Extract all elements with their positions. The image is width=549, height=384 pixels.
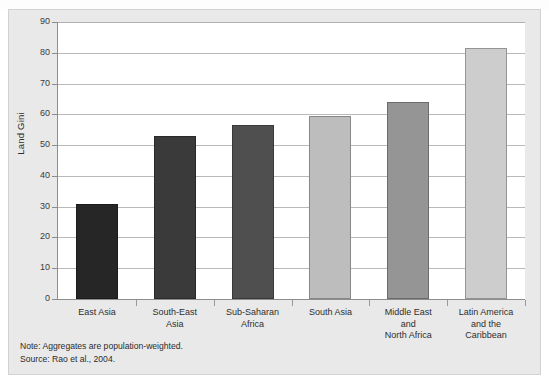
y-axis-tick-label: 30	[18, 201, 50, 211]
x-axis-category-label: South-EastAsia	[136, 307, 214, 330]
x-axis-category-label-line: South Asia	[292, 307, 370, 319]
bar	[76, 204, 118, 299]
y-axis-tick-label: 40	[18, 170, 50, 180]
y-axis-tick-label: 90	[18, 16, 50, 26]
x-axis-tick-mark	[136, 300, 137, 306]
footnote-note: Note: Aggregates are population-weighted…	[20, 340, 480, 353]
x-axis-tick-mark	[292, 300, 293, 306]
x-axis-category-label: Sub-SaharanAfrica	[214, 307, 292, 330]
x-axis-category-label-line: Africa	[214, 319, 292, 331]
y-axis-tick-mark	[52, 84, 57, 85]
x-axis-tick-mark	[369, 300, 370, 306]
bar	[232, 125, 274, 299]
bar	[465, 48, 507, 299]
x-axis-tick-mark	[447, 300, 448, 306]
y-axis-tick-label: 70	[18, 78, 50, 88]
x-axis-category-label-line: and	[369, 319, 447, 331]
chart-plot-wrapper: Land Gini 9080706050403020100 East AsiaS…	[9, 10, 542, 376]
x-axis-category-label-line: Latin America	[447, 307, 525, 319]
y-axis-tick-mark	[52, 268, 57, 269]
x-axis-category-label: Middle EastandNorth Africa	[369, 307, 447, 342]
x-axis-category-label-line: Asia	[136, 319, 214, 331]
bar	[387, 102, 429, 299]
bar-slot	[447, 22, 525, 299]
bar	[154, 136, 196, 299]
figure-panel: Land Gini 9080706050403020100 East AsiaS…	[8, 9, 541, 375]
x-axis-category-label-line: Sub-Saharan	[214, 307, 292, 319]
y-axis-tick-mark	[52, 299, 57, 300]
y-axis-tick-label: 20	[18, 231, 50, 241]
y-axis-tick-label: 60	[18, 108, 50, 118]
bar-slot	[58, 22, 136, 299]
y-axis-tick-mark	[52, 22, 57, 23]
y-axis-tick-label: 80	[18, 47, 50, 57]
bar-slot	[369, 22, 447, 299]
y-axis-tick-mark	[52, 53, 57, 54]
x-axis-category-label-line: and the	[447, 319, 525, 331]
x-axis-category-label-line: East Asia	[58, 307, 136, 319]
x-axis-category-label-line: South-East	[136, 307, 214, 319]
x-axis-ticks	[58, 300, 525, 306]
y-axis-tick-labels: 9080706050403020100	[9, 22, 50, 300]
bar-slot	[214, 22, 292, 299]
y-axis-tick-mark	[52, 176, 57, 177]
x-axis-category-label: East Asia	[58, 307, 136, 319]
footnote-source: Source: Rao et al., 2004.	[20, 353, 480, 366]
scan-edge-artifact	[0, 0, 549, 9]
y-axis-tick-mark	[52, 145, 57, 146]
x-axis-category-label-line: Middle East	[369, 307, 447, 319]
bar-slot	[292, 22, 370, 299]
x-axis-category-label: Latin Americaand theCaribbean	[447, 307, 525, 342]
x-axis-tick-mark	[525, 300, 526, 306]
x-axis-category-label: South Asia	[292, 307, 370, 319]
y-axis-tick-label: 50	[18, 139, 50, 149]
y-axis-tick-mark	[52, 114, 57, 115]
y-axis-tick-label: 10	[18, 262, 50, 272]
bar-series	[58, 22, 525, 299]
y-axis-tick-mark	[52, 207, 57, 208]
bar-slot	[136, 22, 214, 299]
bar	[309, 116, 351, 299]
y-axis-tick-mark	[52, 237, 57, 238]
y-axis-tick-label: 0	[18, 293, 50, 303]
x-axis-tick-mark	[214, 300, 215, 306]
footnote-block: Note: Aggregates are population-weighted…	[20, 340, 480, 365]
